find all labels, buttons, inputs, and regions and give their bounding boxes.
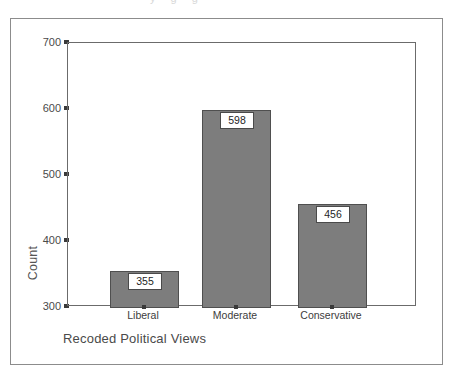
x-category-label-liberal: Liberal (127, 309, 159, 321)
scan-artifact: y g g (0, 0, 454, 12)
bar-value-liberal: 355 (128, 273, 162, 290)
plot-area: 355 598 456 (67, 42, 416, 306)
x-axis-title: Recoded Political Views (63, 331, 206, 346)
chart-screenshot: y g g Count 700 600 500 400 300 355 598 (0, 0, 454, 378)
bar-moderate[interactable] (202, 110, 271, 308)
y-tick-label-400: 400 (27, 234, 61, 246)
figure-frame: Count 700 600 500 400 300 355 598 456 (10, 18, 443, 365)
x-category-label-conservative: Conservative (300, 309, 361, 321)
y-tick-label-500: 500 (27, 168, 61, 180)
bars-layer: 355 598 456 (68, 43, 415, 305)
bar-value-moderate: 598 (220, 112, 254, 129)
y-tick-label-600: 600 (27, 102, 61, 114)
x-category-label-moderate: Moderate (213, 309, 257, 321)
bar-value-conservative: 456 (316, 206, 350, 223)
scan-artifact-text: y g g (150, 0, 204, 4)
y-tick-label-700: 700 (27, 36, 61, 48)
y-tick-label-300: 300 (27, 300, 61, 312)
